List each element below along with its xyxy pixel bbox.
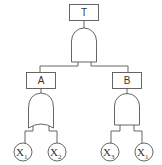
and-gate-b: [115, 93, 140, 125]
leaf-1-sub: 1: [24, 153, 28, 161]
or-gate-a: [29, 93, 54, 128]
fault-tree-diagram: T A B X 1 X 2 X 3 X 1: [0, 0, 162, 165]
leaf-4-sub: 1: [145, 153, 149, 161]
event-b-label: B: [124, 75, 131, 86]
event-a-label: A: [38, 75, 45, 86]
leaf-4-base: X: [137, 146, 145, 158]
top-and-gate: [72, 28, 97, 62]
top-event-label: T: [81, 7, 87, 18]
leaf-1-base: X: [16, 146, 24, 158]
leaf-2-base: X: [50, 146, 58, 158]
leaf-3-sub: 3: [111, 153, 115, 161]
leaf-3-base: X: [103, 146, 111, 158]
leaf-2-sub: 2: [58, 153, 62, 161]
